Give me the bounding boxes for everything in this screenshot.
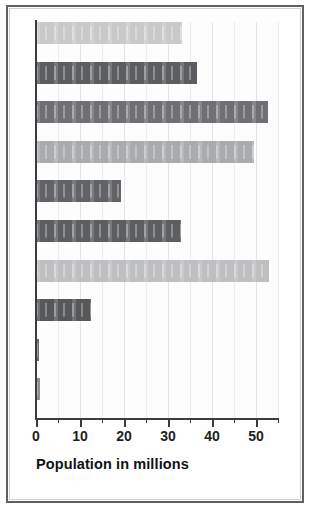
x-tick-minor — [234, 418, 235, 423]
x-tick-label: 10 — [72, 428, 88, 444]
bar-row — [36, 299, 278, 321]
bar — [36, 299, 91, 321]
x-tick-minor — [278, 418, 279, 423]
x-tick-major — [256, 418, 258, 427]
bar — [36, 22, 182, 44]
bar-row — [36, 141, 278, 163]
bar — [36, 101, 268, 123]
x-tick-major — [124, 418, 126, 427]
y-axis-line — [35, 20, 37, 420]
bar — [36, 62, 197, 84]
x-tick-major — [212, 418, 214, 427]
bar — [36, 141, 254, 163]
x-tick-major — [168, 418, 170, 427]
bar-row — [36, 220, 278, 242]
bar — [36, 180, 121, 202]
x-tick-minor — [102, 418, 103, 423]
x-tick-minor — [146, 418, 147, 423]
x-tick-label: 30 — [160, 428, 176, 444]
x-tick-minor — [190, 418, 191, 423]
bar-row — [36, 378, 278, 400]
x-axis-ticks — [0, 418, 310, 428]
x-tick-label: 20 — [116, 428, 132, 444]
bar-row — [36, 101, 278, 123]
bar — [36, 260, 269, 282]
x-tick-major — [36, 418, 38, 427]
bar-row — [36, 260, 278, 282]
bar-row — [36, 339, 278, 361]
figure-root: 01020304050 Population in millions — [0, 0, 310, 508]
x-axis-tick-labels: 01020304050 — [0, 428, 310, 448]
bar-row — [36, 180, 278, 202]
bar-row — [36, 22, 278, 44]
x-tick-label: 50 — [248, 428, 264, 444]
x-tick-label: 40 — [204, 428, 220, 444]
x-axis-title: Population in millions — [36, 456, 189, 472]
x-tick-major — [80, 418, 82, 427]
x-tick-minor — [58, 418, 59, 423]
x-tick-label: 0 — [32, 428, 40, 444]
bar — [36, 220, 181, 242]
bar-row — [36, 62, 278, 84]
